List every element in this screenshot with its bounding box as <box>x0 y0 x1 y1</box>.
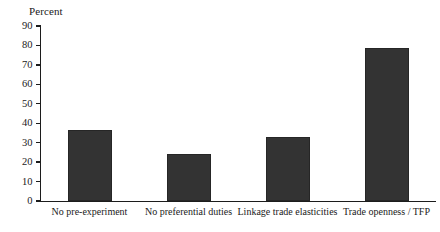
bar <box>266 137 310 201</box>
y-tick: 60 <box>36 84 41 85</box>
y-tick-label: 40 <box>22 118 33 129</box>
y-tick-label: 70 <box>22 59 33 70</box>
y-tick-label: 60 <box>22 79 33 90</box>
bar <box>365 48 409 201</box>
bar <box>167 154 211 201</box>
y-tick-label: 20 <box>22 156 33 167</box>
y-tick: 50 <box>36 103 41 104</box>
bar-chart-figure: Percent 0102030405060708090 No pre-exper… <box>0 0 440 232</box>
y-tick-label: 0 <box>27 195 32 206</box>
y-tick: 0 <box>36 200 41 201</box>
y-tick: 20 <box>36 161 41 162</box>
y-axis-line <box>40 26 41 201</box>
y-tick: 30 <box>36 142 41 143</box>
y-tick-label: 90 <box>22 20 33 31</box>
y-tick: 80 <box>36 45 41 46</box>
category-label: Linkage trade elasticities <box>238 206 338 218</box>
y-tick: 90 <box>36 25 41 26</box>
y-axis-title: Percent <box>29 5 63 18</box>
y-tick: 40 <box>36 123 41 124</box>
plot-area: 0102030405060708090 No pre-experimentNo … <box>40 26 436 201</box>
category-label: No preferential duties <box>145 206 232 218</box>
bar <box>68 130 112 201</box>
y-tick: 10 <box>36 181 41 182</box>
category-label: No pre-experiment <box>52 206 128 218</box>
y-tick-label: 50 <box>22 98 33 109</box>
x-axis-line <box>40 201 436 202</box>
y-tick-label: 10 <box>22 176 33 187</box>
y-tick-label: 80 <box>22 40 33 51</box>
category-label: Trade openness / TFP <box>343 206 430 218</box>
y-tick: 70 <box>36 64 41 65</box>
y-tick-label: 30 <box>22 137 33 148</box>
